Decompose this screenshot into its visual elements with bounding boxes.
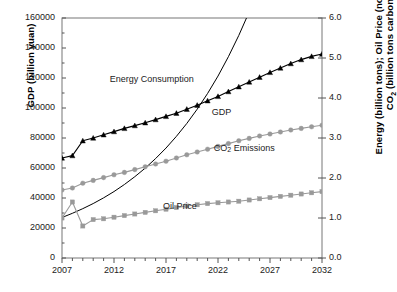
annotation-gdp: GDP <box>212 107 232 117</box>
y-axis-right-tick-label: 4.0 <box>329 92 342 102</box>
y-axis-left-tick-label: 60000 <box>0 162 55 172</box>
x-axis-tick-label: 2007 <box>40 265 84 275</box>
y-axis-right-tick-label: 0.0 <box>329 252 342 262</box>
y-axis-left-tick-label: 100000 <box>0 102 55 112</box>
series-co2-emissions <box>60 123 325 192</box>
y-axis-left-tick-label: 40000 <box>0 192 55 202</box>
annotation-energy-consumption: Energy Consumption <box>110 74 194 84</box>
y-axis-left-tick-label: 140000 <box>0 42 55 52</box>
series-energy-consumption <box>59 51 324 160</box>
y-axis-right-tick-label: 3.0 <box>329 132 342 142</box>
data-series-group <box>59 0 324 228</box>
y-axis-left-tick-label: 120000 <box>0 72 55 82</box>
y-axis-left-tick-label: 160000 <box>0 12 55 22</box>
y-axis-right-tick-label: 5.0 <box>329 52 342 62</box>
plot-frame <box>62 18 322 258</box>
axis-ticks <box>62 18 326 263</box>
chart-figure: GDP (billion yuan) Energy (billion tons)… <box>0 0 397 292</box>
y-axis-left-tick-label: 0 <box>0 252 55 262</box>
x-axis-tick-label: 2032 <box>300 265 344 275</box>
x-axis-tick-label: 2017 <box>144 265 188 275</box>
y-axis-left-tick-label: 20000 <box>0 222 55 232</box>
annotation-co2-emissions: CO2 Emissions <box>214 143 275 153</box>
x-axis-tick-label: 2027 <box>248 265 292 275</box>
y-axis-right-tick-label: 6.0 <box>329 12 342 22</box>
x-axis-tick-label: 2022 <box>196 265 240 275</box>
y-axis-right-tick-label: 1.0 <box>329 212 342 222</box>
x-axis-tick-label: 2012 <box>92 265 136 275</box>
series-gdp <box>62 0 322 218</box>
plot-canvas <box>0 0 397 292</box>
y-axis-right-tick-label: 2.0 <box>329 172 342 182</box>
annotation-oil-price: Oil Price <box>163 201 197 211</box>
y-axis-left-tick-label: 80000 <box>0 132 55 142</box>
